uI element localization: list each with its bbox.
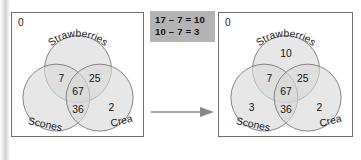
- right-arrow-icon: [150, 103, 216, 121]
- value-scones-cream-right: 36: [280, 104, 292, 115]
- value-cream-only-left: 2: [109, 102, 115, 113]
- value-strawberries-only-right: 10: [280, 48, 292, 59]
- value-cream-only-right: 2: [317, 102, 323, 113]
- value-strawberries-cream-right: 25: [297, 73, 309, 84]
- value-strawberries-scones-right: 7: [266, 73, 272, 84]
- venn-right-svg: Strawberries Scones Cream 10 7 25 67 36 …: [219, 13, 352, 136]
- value-strawberries-cream-left: 25: [89, 73, 101, 84]
- value-all-three-left: 67: [72, 86, 84, 97]
- formula-callout-box: 17 – 7 = 10 10 – 7 = 3: [150, 11, 215, 42]
- formula-line-2: 10 – 7 = 3: [155, 26, 215, 38]
- value-scones-cream-left: 36: [72, 104, 84, 115]
- formula-line-1: 17 – 7 = 10: [155, 14, 215, 26]
- venn-transformation-figure: 0 Strawberries Scones Cream: [0, 0, 361, 160]
- venn-diagram-before: 0 Strawberries Scones Cream: [11, 12, 144, 137]
- page-edge-strip: [0, 0, 9, 160]
- value-scones-only-right: 3: [249, 102, 255, 113]
- venn-diagram-after: 0 Strawberries Scones Cream: [218, 12, 353, 137]
- venn-left-svg: Strawberries Scones Cream 7 25 67 36 2: [12, 13, 143, 136]
- value-strawberries-scones-left: 7: [58, 73, 64, 84]
- transformation-arrow: [150, 103, 216, 121]
- value-all-three-right: 67: [280, 86, 292, 97]
